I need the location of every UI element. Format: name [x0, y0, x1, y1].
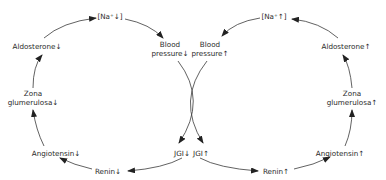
- arrow-bp-to-jgi-left: [178, 61, 193, 143]
- zona-glumerulosa-increase-label-line1: Zona: [343, 89, 361, 98]
- renin-increase-label: Renin↑: [263, 167, 289, 176]
- arrow-aldosterone-to-sodium-right: [292, 19, 338, 38]
- arrow-sodium-to-bp-left: [125, 19, 163, 38]
- blood-pressure-increase-label-line2: pressure↑: [191, 49, 228, 58]
- left-cycle: [Na⁺↓] Blood pressure↓ JGI↓ Renin↓ Angio…: [8, 12, 194, 176]
- arrow-jgi-to-renin-right: [200, 158, 258, 171]
- renin-decrease-label: Renin↓: [95, 167, 121, 176]
- sodium-decrease-label: [Na⁺↓]: [97, 12, 122, 21]
- zona-glumerulosa-decrease-label-line1: Zona: [24, 89, 42, 98]
- arrow-jgi-to-renin-left: [128, 158, 182, 171]
- arrow-zona-to-aldosterone-right: [343, 55, 352, 88]
- zona-glumerulosa-increase-label-line2: glumerulosa↑: [327, 98, 378, 107]
- renin-angiotensin-feedback-diagram: [Na⁺↓] Blood pressure↓ JGI↓ Renin↓ Angio…: [0, 0, 386, 180]
- blood-pressure-decrease-label-line2: pressure↓: [151, 49, 188, 58]
- jgi-increase-label: JGI↑: [192, 149, 209, 158]
- blood-pressure-increase-label-line1: Blood: [200, 40, 220, 49]
- aldosterone-decrease-label: Aldosterone↓: [12, 42, 61, 51]
- angiotensin-increase-label: Angiotensin↑: [316, 149, 365, 158]
- arrow-renin-to-angiotensin-left: [60, 158, 92, 169]
- arrow-zona-to-aldosterone-left: [33, 55, 42, 88]
- arrow-angiotensin-to-zona-right: [345, 110, 352, 146]
- arrow-angiotensin-to-zona-left: [33, 110, 44, 146]
- sodium-increase-label: [Na⁺↑]: [261, 12, 286, 21]
- zona-glumerulosa-decrease-label-line2: glumerulosa↓: [8, 98, 59, 107]
- right-cycle: [Na⁺↑] Blood pressure↑ JGI↑ Renin↑ Angio…: [190, 12, 377, 176]
- arrow-renin-to-angiotensin-right: [294, 157, 330, 169]
- arrow-aldosterone-to-sodium-left: [44, 18, 96, 38]
- arrow-sodium-to-bp-right: [222, 18, 260, 36]
- angiotensin-decrease-label: Angiotensin↓: [32, 149, 81, 158]
- jgi-decrease-label: JGI↓: [173, 149, 190, 158]
- aldosterone-increase-label: Aldosterone↑: [321, 42, 370, 51]
- blood-pressure-decrease-label-line1: Blood: [160, 40, 180, 49]
